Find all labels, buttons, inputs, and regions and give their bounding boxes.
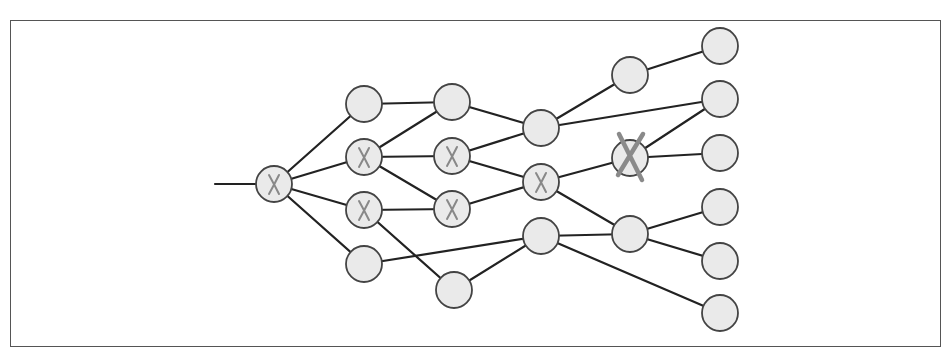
node-c5e <box>702 243 738 279</box>
node-c4a <box>612 57 648 93</box>
network-graph <box>0 0 946 354</box>
node-c2c <box>434 191 470 227</box>
node-circle <box>346 246 382 282</box>
edge <box>541 99 720 128</box>
node-c1d <box>346 246 382 282</box>
node-circle <box>702 81 738 117</box>
node-c5b <box>702 81 738 117</box>
node-circle <box>523 218 559 254</box>
node-c4b <box>612 134 648 180</box>
node-circle <box>702 135 738 171</box>
node-root <box>256 166 292 202</box>
node-circle <box>523 110 559 146</box>
node-circle <box>612 216 648 252</box>
node-c5d <box>702 189 738 225</box>
node-c1a <box>346 86 382 122</box>
node-circle <box>612 57 648 93</box>
node-circle <box>702 189 738 225</box>
node-c2b <box>434 138 470 174</box>
node-c3b <box>523 164 559 200</box>
node-c2d <box>436 272 472 308</box>
node-circle <box>702 28 738 64</box>
node-circle <box>346 86 382 122</box>
node-c3a <box>523 110 559 146</box>
node-c4c <box>612 216 648 252</box>
node-c5c <box>702 135 738 171</box>
node-c5a <box>702 28 738 64</box>
node-c1b <box>346 139 382 175</box>
node-c2a <box>434 84 470 120</box>
node-layer <box>256 28 738 331</box>
node-circle <box>702 243 738 279</box>
node-c3c <box>523 218 559 254</box>
node-circle <box>436 272 472 308</box>
edge <box>364 236 541 264</box>
node-circle <box>702 295 738 331</box>
node-circle <box>434 84 470 120</box>
node-c5f <box>702 295 738 331</box>
node-c1c <box>346 192 382 228</box>
